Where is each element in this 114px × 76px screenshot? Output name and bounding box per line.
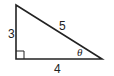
label-vertical-side: 3 [8, 27, 15, 41]
label-hypotenuse: 5 [59, 19, 66, 33]
right-angle-marker [16, 51, 24, 59]
label-angle-theta: θ [77, 46, 83, 58]
triangle-diagram: 3 5 4 θ [0, 0, 114, 76]
label-horizontal-side: 4 [54, 62, 61, 76]
